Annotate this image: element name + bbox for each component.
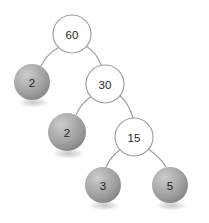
node-label: 60	[66, 29, 79, 41]
node-label: 2	[64, 127, 70, 139]
tree-edge	[76, 96, 92, 115]
nodes-layer: 6023021535	[14, 15, 188, 211]
tree-node-filled[interactable]: 2	[48, 113, 86, 159]
node-label: 30	[99, 79, 112, 91]
tree-node-open[interactable]: 15	[115, 118, 153, 156]
tree-edge	[41, 48, 59, 67]
tree-node-open[interactable]: 30	[86, 65, 124, 103]
tree-node-filled[interactable]: 5	[152, 167, 188, 211]
node-label: 5	[167, 180, 173, 192]
tree-canvas: 6023021535	[0, 0, 209, 223]
tree-node-filled[interactable]: 2	[14, 64, 50, 108]
node-label: 2	[29, 77, 35, 89]
tree-edge	[86, 46, 101, 65]
node-label: 3	[100, 180, 106, 192]
tree-edge	[106, 149, 121, 167]
tree-node-filled[interactable]: 3	[85, 167, 121, 211]
binary-tree-diagram: 6023021535	[0, 0, 209, 223]
node-label: 15	[128, 132, 141, 144]
tree-node-open[interactable]: 60	[53, 15, 91, 53]
tree-edge	[119, 95, 133, 118]
tree-edge	[148, 149, 166, 167]
